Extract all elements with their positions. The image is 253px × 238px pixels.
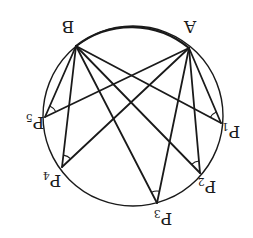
- chord-a-p4: [62, 48, 189, 167]
- label-p5: P5: [26, 111, 44, 134]
- label-p3: P3: [154, 207, 172, 230]
- angle-mark-p1: [210, 112, 216, 117]
- chord-b-p1: [76, 46, 221, 123]
- label-p1: P1: [222, 120, 240, 143]
- angle-mark-p2: [192, 161, 199, 164]
- angle-mark-p5: [50, 106, 56, 112]
- angle-marks: [50, 106, 216, 192]
- diagram-canvas: ABP1P2P3P4P5: [0, 0, 253, 238]
- chord-a-p3: [157, 48, 189, 203]
- angle-mark-p3: [152, 191, 160, 192]
- chord-b-p2: [76, 46, 200, 173]
- label-p2: P2: [198, 175, 216, 198]
- label-b: B: [62, 18, 75, 38]
- label-p4: P4: [43, 169, 61, 192]
- angle-mark-p4: [63, 155, 70, 159]
- inscribed-angle-diagram: ABP1P2P3P4P5: [0, 0, 253, 238]
- point-labels: ABP1P2P3P4P5: [26, 18, 240, 230]
- chord-a-p5: [45, 48, 189, 117]
- circle: [43, 26, 223, 206]
- circle-outline: [43, 26, 223, 206]
- label-a: A: [183, 18, 197, 38]
- chords: [45, 46, 221, 203]
- arc-ab: [76, 27, 189, 48]
